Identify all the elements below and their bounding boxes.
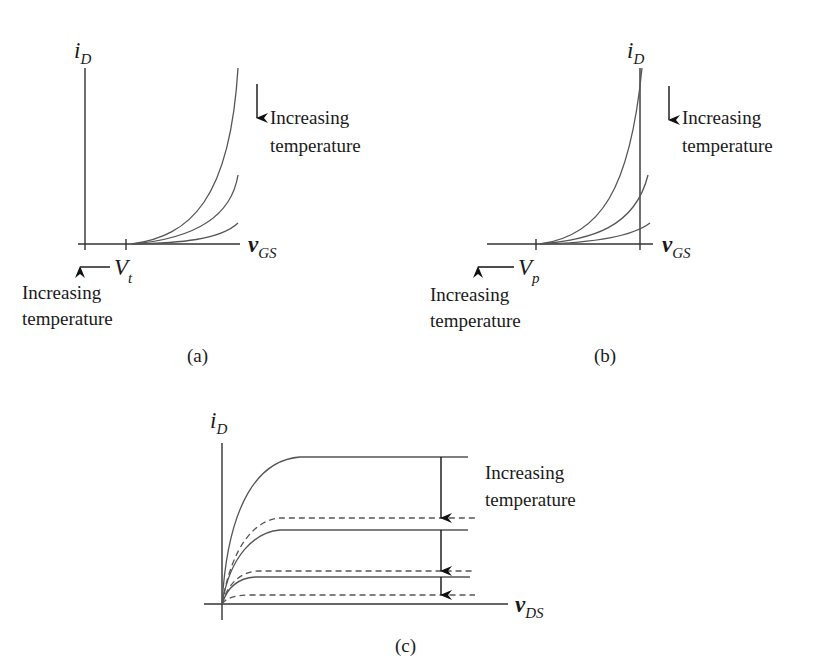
annotation-line1: Increasing — [270, 107, 350, 128]
curve-low-temp — [132, 68, 238, 244]
annotation-line2: temperature — [270, 135, 361, 156]
threshold-label: Vp — [518, 255, 540, 286]
dashed-curve-2 — [222, 571, 475, 604]
x-axis-label: vGS — [662, 232, 691, 261]
curve-low-temp — [540, 68, 642, 244]
panel-b: iD vGS Increasing temperature Vp Increas… — [430, 38, 773, 367]
figure-canvas: iD vGS Increasing temperature Vt Increas… — [0, 0, 820, 668]
annotation-line2: temperature — [485, 489, 576, 510]
threshold-annotation-line1: Increasing — [22, 282, 102, 303]
solid-curve-2 — [222, 530, 468, 604]
dashed-curve-3 — [222, 595, 475, 604]
curve-mid-temp — [540, 175, 648, 244]
annotation-line2: temperature — [682, 135, 773, 156]
panel-c: iD vDS Increasing temperature (c) — [204, 408, 576, 657]
y-axis-label: iD — [210, 408, 227, 437]
caption-c: (c) — [395, 635, 416, 657]
threshold-label: Vt — [114, 255, 133, 286]
annotation-line1: Increasing — [485, 462, 565, 483]
x-axis-label: vDS — [515, 592, 544, 621]
y-axis-label: iD — [74, 38, 91, 67]
y-axis-label: iD — [627, 38, 644, 67]
caption-b: (b) — [594, 345, 616, 367]
threshold-annotation-line2: temperature — [22, 308, 113, 329]
panel-a: iD vGS Increasing temperature Vt Increas… — [22, 38, 361, 367]
curve-mid-temp — [132, 175, 238, 244]
threshold-annotation-line1: Increasing — [430, 284, 510, 305]
caption-a: (a) — [187, 345, 208, 367]
annotation-line1: Increasing — [682, 107, 762, 128]
x-axis-label: vGS — [248, 232, 277, 261]
solid-curve-3 — [222, 577, 470, 604]
dashed-curve-1 — [222, 518, 475, 604]
threshold-annotation-line2: temperature — [430, 310, 521, 331]
